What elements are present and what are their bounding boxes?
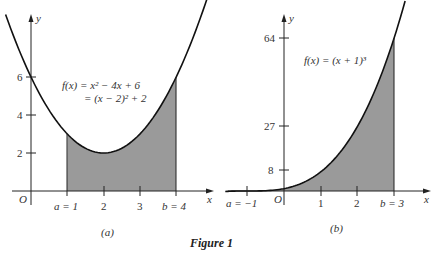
figure-canvas: y x O 2 4 6 a = 1 2 3 b = 4 f(x) = x² − … — [0, 0, 442, 258]
svg-text:64: 64 — [264, 32, 276, 44]
origin-a: O — [19, 193, 27, 205]
y-label-a: y — [35, 12, 41, 24]
svg-text:b = 4: b = 4 — [162, 200, 186, 212]
svg-text:2: 2 — [101, 200, 107, 212]
panel-label-a: (a) — [101, 226, 114, 239]
svg-text:8: 8 — [268, 164, 274, 176]
svg-text:2: 2 — [354, 197, 360, 209]
function-label-b: f(x) = (x + 1)³ — [304, 54, 367, 67]
svg-text:4: 4 — [17, 109, 23, 121]
svg-text:1: 1 — [318, 197, 324, 209]
y-arrow-icon — [29, 14, 34, 22]
chart-a: y x O 2 4 6 a = 1 2 3 b = 4 f(x) = x² − … — [6, 0, 217, 239]
panel-label-b: (b) — [330, 222, 343, 235]
svg-text:a = 1: a = 1 — [54, 200, 78, 212]
svg-text:2: 2 — [17, 147, 23, 159]
svg-text:6: 6 — [17, 71, 23, 83]
y-arrow-icon — [282, 14, 287, 22]
chart-b: y x O 8 27 64 a = −1 1 2 b = 3 f(x) = (x… — [225, 1, 431, 235]
origin-b: O — [274, 193, 282, 205]
x-label-b: x — [423, 193, 429, 205]
x-label-a: x — [206, 193, 212, 205]
y-label-b: y — [288, 12, 294, 24]
function-label-a: f(x) = x² − 4x + 6 — [62, 79, 141, 92]
svg-text:3: 3 — [137, 200, 143, 212]
svg-text:b = 3: b = 3 — [380, 197, 404, 209]
svg-text:27: 27 — [264, 120, 276, 132]
svg-text:= (x − 2)² + 2: = (x − 2)² + 2 — [84, 92, 147, 105]
svg-text:a = −1: a = −1 — [226, 197, 257, 209]
figure-caption: Figure 1 — [190, 236, 233, 251]
